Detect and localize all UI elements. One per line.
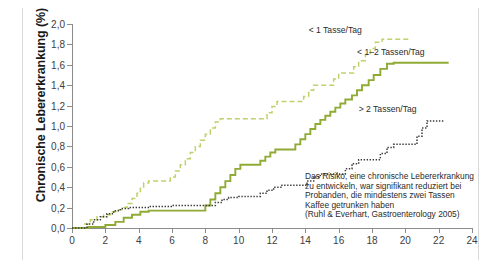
x-tick-mark [272, 228, 273, 233]
y-tick-label: 0,8 [51, 141, 65, 152]
x-tick-label: 16 [333, 235, 344, 246]
y-tick-label: 0,6 [51, 161, 65, 172]
series-label: < 1–2 Tassen/Tag [357, 47, 424, 57]
x-tick-label: 8 [203, 235, 209, 246]
series-label: > 2 Tassen/Tag [359, 104, 417, 114]
x-tick-label: 14 [300, 235, 311, 246]
y-tick-label: 1,8 [51, 39, 65, 50]
y-tick-label: 1,6 [51, 59, 65, 70]
y-tick-label: 1,4 [51, 80, 65, 91]
x-tick-mark [305, 228, 306, 233]
x-tick-label: 20 [400, 235, 411, 246]
y-tick-label: 0,2 [51, 202, 65, 213]
x-tick-mark [372, 228, 373, 233]
x-tick-mark [339, 228, 340, 233]
x-tick-label: 6 [169, 235, 175, 246]
x-tick-label: 24 [466, 235, 477, 246]
x-tick-label: 4 [136, 235, 142, 246]
x-tick-mark [439, 228, 440, 233]
x-tick-mark [105, 228, 106, 233]
annotation-line: (Ruhl & Everhart, Gastroenterology 2005) [305, 210, 483, 220]
y-tick-label: 0,0 [51, 223, 65, 234]
y-tick-label: 0,4 [51, 182, 65, 193]
left-edge-rule [22, 8, 23, 260]
x-tick-label: 10 [233, 235, 244, 246]
y-tick-label: 1,2 [51, 100, 65, 111]
x-tick-mark [139, 228, 140, 233]
x-tick-mark [172, 228, 173, 233]
series-label: < 1 Tasse/Tag [309, 25, 362, 35]
x-tick-mark [472, 228, 473, 233]
y-tick-label: 2,0 [51, 19, 65, 30]
x-tick-label: 2 [103, 235, 109, 246]
x-tick-label: 12 [266, 235, 277, 246]
x-tick-mark [205, 228, 206, 233]
x-tick-label: 18 [366, 235, 377, 246]
x-tick-label: 22 [433, 235, 444, 246]
right-edge-rule [478, 8, 479, 260]
annotation-text: Das Risiko, eine chronische Lebererkrank… [305, 172, 483, 220]
y-axis-title: Chronische Lebererkrankung (%) [34, 0, 48, 210]
x-tick-mark [239, 228, 240, 233]
x-tick-label: 0 [69, 235, 75, 246]
x-tick-mark [405, 228, 406, 233]
chart-figure: Chronische Lebererkrankung (%) 0,00,20,4… [0, 0, 499, 268]
y-tick-label: 1,0 [51, 121, 65, 132]
